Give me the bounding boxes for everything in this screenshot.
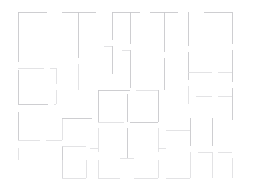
walls-layer [18,12,232,178]
floor-plan-drawing [0,0,256,192]
floor-plan-canvas [0,0,256,192]
